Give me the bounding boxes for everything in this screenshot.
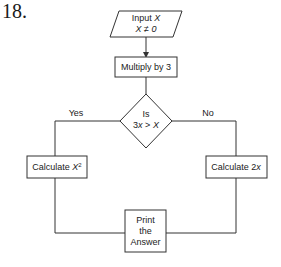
svg-text:Is: Is bbox=[142, 109, 150, 119]
svg-text:Calculate X2: Calculate X2 bbox=[32, 162, 82, 172]
decision-node: Is 3x > X bbox=[120, 94, 172, 148]
connector-no-branch bbox=[172, 121, 236, 156]
calculate-x-squared-node: Calculate X2 bbox=[27, 156, 87, 178]
svg-text:X ≠ 0: X ≠ 0 bbox=[135, 24, 157, 34]
multiply-process-node: Multiply by 3 bbox=[115, 57, 177, 77]
svg-text:the: the bbox=[139, 226, 152, 236]
input-node: Input X X ≠ 0 bbox=[110, 11, 182, 37]
svg-text:Multiply by 3: Multiply by 3 bbox=[121, 62, 171, 72]
svg-text:Input X: Input X bbox=[132, 13, 162, 23]
connector-yes-branch bbox=[55, 121, 120, 156]
calculate-2x-node: Calculate 2x bbox=[206, 156, 267, 178]
connector-yes-to-output bbox=[55, 178, 125, 233]
connector-no-to-output bbox=[166, 178, 236, 233]
yes-label: Yes bbox=[69, 108, 84, 118]
flowchart: Input X X ≠ 0 Multiply by 3 Is 3x > X Ye… bbox=[0, 0, 281, 267]
svg-text:Answer: Answer bbox=[130, 237, 160, 247]
no-label: No bbox=[202, 108, 214, 118]
svg-text:3x > X: 3x > X bbox=[133, 120, 160, 130]
svg-text:Calculate 2x: Calculate 2x bbox=[211, 162, 261, 172]
svg-text:Print: Print bbox=[136, 215, 155, 225]
print-answer-node: Print the Answer bbox=[125, 210, 166, 252]
